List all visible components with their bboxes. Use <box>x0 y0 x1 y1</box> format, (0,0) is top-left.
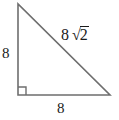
radical-expression: √2 <box>72 26 89 43</box>
triangle-figure: 8 8 8√2 <box>0 0 119 120</box>
radicand-value: 2 <box>80 26 89 43</box>
triangle-shape <box>18 4 110 95</box>
vertical-leg-label: 8 <box>2 46 10 61</box>
hypotenuse-label: 8√2 <box>61 26 89 43</box>
horizontal-leg-label: 8 <box>57 101 65 116</box>
hypotenuse-coefficient: 8 <box>61 26 69 43</box>
